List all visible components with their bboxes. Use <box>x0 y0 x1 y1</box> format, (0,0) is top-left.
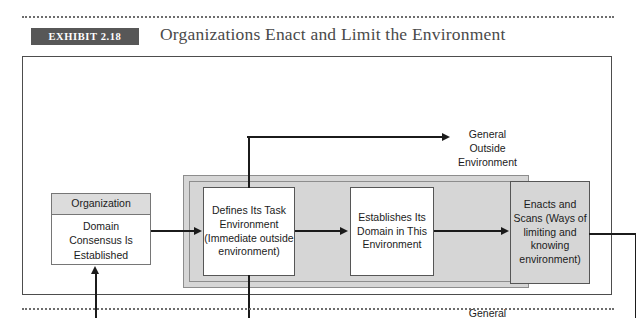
defines-task-environment-box: Defines Its Task Environment (Immediate … <box>203 187 295 276</box>
arrowhead-defines-to-establishes <box>340 227 348 235</box>
arrowhead-feedback-into-organization <box>91 266 99 274</box>
organization-box-header: Organization <box>52 194 150 215</box>
establishes-domain-box: Establishes Its Domain in This Environme… <box>350 187 434 276</box>
connector-defines-to-establishes <box>295 230 341 232</box>
exhibit-title: Organizations Enact and Limit the Enviro… <box>160 24 505 45</box>
connector-defines-up-horizontal <box>247 136 443 138</box>
connector-org-to-defines <box>151 230 195 232</box>
exhibit-page: EXHIBIT 2.18 Organizations Enact and Lim… <box>0 0 636 318</box>
feedback-connector-vertical-left <box>95 273 97 318</box>
top-dotted-rule <box>22 16 614 18</box>
label-top-line3: Environment <box>458 155 517 169</box>
connector-defines-up-vertical <box>248 136 250 188</box>
organization-box: Organization Domain Consensus Is Establi… <box>51 193 151 265</box>
connector-defines-down-vertical <box>248 275 250 318</box>
feedback-connector-right-segment <box>589 233 636 235</box>
arrowhead-top-outside-environment <box>442 133 450 141</box>
label-top-line2: Outside <box>458 141 517 155</box>
organization-box-body: Domain Consensus Is Established <box>52 215 150 266</box>
enacts-and-scans-box: Enacts and Scans (Ways of limiting and k… <box>510 181 590 284</box>
diagram-frame: Organization Domain Consensus Is Establi… <box>22 56 612 295</box>
bottom-dotted-rule <box>22 308 614 310</box>
general-outside-environment-label-top: General Outside Environment <box>458 127 517 169</box>
connector-establishes-to-enacts <box>434 230 502 232</box>
arrowhead-establishes-to-enacts <box>501 227 509 235</box>
label-top-line1: General <box>458 127 517 141</box>
exhibit-badge: EXHIBIT 2.18 <box>31 28 139 45</box>
arrowhead-org-to-defines <box>194 227 202 235</box>
